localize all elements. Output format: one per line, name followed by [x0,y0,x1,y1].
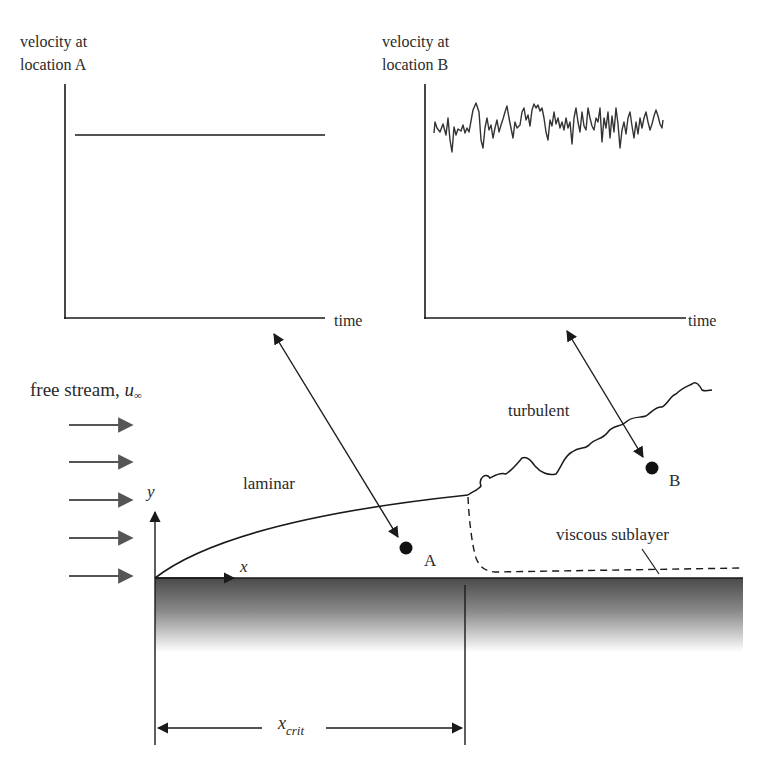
graph-b-xlabel: time [688,312,716,329]
laminar-boundary-layer-edge [155,495,468,578]
xcrit-label: xcrit [277,713,304,738]
free-stream: free stream, u∞ [30,379,142,576]
y-axis-label: y [145,482,155,501]
graph-b-fluctuating-velocity-line [434,103,663,152]
point-b-marker [646,462,659,475]
point-a-label: A [424,551,437,570]
xcrit-symbol: x [277,713,286,733]
graph-a-ylabel-line1: velocity at [20,33,88,51]
turbulent-label: turbulent [508,401,570,420]
graph-a-ylabel-line2: location A [20,56,87,73]
free-stream-subscript: ∞ [134,389,142,401]
viscous-sublayer-label: viscous sublayer [556,525,669,544]
xcrit-subscript: crit [286,723,304,738]
viscous-sublayer-leader-line [642,549,659,574]
graph-b-ylabel-line2: location B [382,56,448,73]
free-stream-symbol: u [124,379,134,400]
double-arrow-a-icon [274,334,398,537]
x-axis-label: x [239,557,248,576]
free-stream-label: free stream, u∞ [30,379,142,401]
graph-b-ylabel-line1: velocity at [382,33,450,51]
free-stream-arrows [69,425,132,576]
graph-location-b: velocity at location B time [382,33,716,329]
boundary-layer-diagram: velocity at location A time velocity at … [0,0,776,757]
free-stream-text: free stream, [30,379,124,400]
graph-location-a: velocity at location A time [20,33,362,329]
flat-plate [155,578,743,652]
graph-a-xlabel: time [334,312,362,329]
point-a-marker [400,542,413,555]
point-b-label: B [669,471,680,490]
laminar-label: laminar [243,474,295,493]
double-arrow-b-icon [567,331,643,457]
